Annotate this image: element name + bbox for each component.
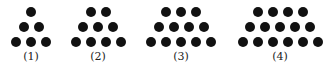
dot — [154, 22, 164, 32]
dot — [26, 37, 36, 47]
figure-label: (2) — [90, 50, 106, 63]
dot — [169, 22, 179, 32]
dot — [283, 37, 293, 47]
dot — [11, 37, 21, 47]
dot — [176, 7, 186, 17]
dot — [290, 22, 300, 32]
dot — [253, 7, 263, 17]
dot — [26, 7, 36, 17]
dot — [268, 7, 278, 17]
dot — [101, 37, 111, 47]
dot — [86, 7, 96, 17]
dot — [191, 37, 201, 47]
dot — [108, 22, 118, 32]
dot — [298, 37, 308, 47]
dot — [275, 22, 285, 32]
dot — [260, 22, 270, 32]
figure-label: (4) — [272, 50, 288, 63]
dot — [298, 7, 308, 17]
dot — [268, 37, 278, 47]
dot — [176, 37, 186, 47]
dot — [191, 7, 201, 17]
dot — [86, 37, 96, 47]
dot — [253, 37, 263, 47]
dot — [93, 22, 103, 32]
dot — [283, 7, 293, 17]
figure-label: (3) — [173, 50, 189, 63]
dot — [146, 37, 156, 47]
dot — [116, 37, 126, 47]
dot — [71, 37, 81, 47]
dot — [161, 7, 171, 17]
dot — [238, 37, 248, 47]
dot — [184, 22, 194, 32]
dot — [34, 22, 44, 32]
dot — [305, 22, 315, 32]
dot — [78, 22, 88, 32]
dot — [41, 37, 51, 47]
dot — [199, 22, 209, 32]
figure-label: (1) — [23, 50, 39, 63]
dot — [19, 22, 29, 32]
dot — [101, 7, 111, 17]
dot — [206, 37, 216, 47]
dot — [245, 22, 255, 32]
dot — [313, 37, 323, 47]
dot — [161, 37, 171, 47]
